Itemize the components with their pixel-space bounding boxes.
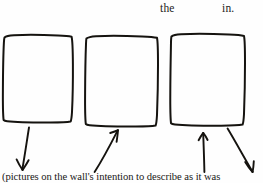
frame-3 [170, 34, 245, 126]
arrow-1-down-left [17, 128, 29, 171]
caption-line: (pictures on the wall's intention to des… [2, 171, 263, 183]
hand-drawn-diagram [0, 0, 263, 183]
caption-text: (pictures on the wall's intention to des… [2, 171, 263, 183]
scanned-page: the in. [0, 0, 263, 183]
arrow-2-up-right [95, 130, 118, 172]
arrow-4-down-right [228, 129, 254, 172]
frame-2 [85, 36, 158, 127]
arrow-3-up [199, 133, 208, 172]
frame-1 [3, 35, 73, 123]
